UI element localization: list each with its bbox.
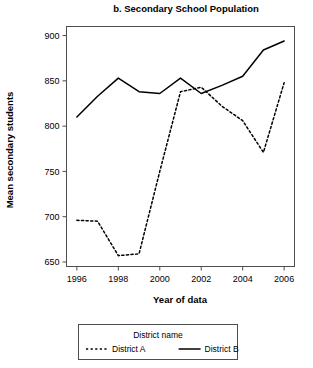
x-tick-label: 1996 [67,274,87,284]
x-axis-title: Year of data [153,294,208,305]
series-line-district-a [77,83,284,256]
chart-figure: b. Secondary School Population 650700750… [0,0,313,368]
chart-legend: District name District ADistrict B [79,325,239,360]
y-tick-label: 750 [44,167,59,177]
legend-label: District B [205,344,239,354]
legend-label: District A [112,344,146,354]
legend-entries: District ADistrict B [86,344,239,354]
y-axis-title: Mean secondary students [4,92,15,209]
x-tick-label: 2002 [191,274,211,284]
series-line-district-b [77,41,284,117]
chart-title: b. Secondary School Population [113,3,259,14]
y-axis-ticks: 650700750800850900 [44,31,66,267]
line-chart: b. Secondary School Population 650700750… [0,0,313,368]
series-lines [77,41,284,256]
x-tick-label: 2004 [233,274,253,284]
x-tick-label: 2006 [274,274,294,284]
x-tick-label: 2000 [150,274,170,284]
legend-title: District name [133,330,183,340]
y-tick-label: 850 [44,76,59,86]
y-tick-label: 700 [44,212,59,222]
y-tick-label: 650 [44,257,59,267]
y-tick-label: 800 [44,121,59,131]
x-axis-ticks: 199619982000200220042006 [67,267,294,284]
y-tick-label: 900 [44,31,59,41]
x-tick-label: 1998 [108,274,128,284]
